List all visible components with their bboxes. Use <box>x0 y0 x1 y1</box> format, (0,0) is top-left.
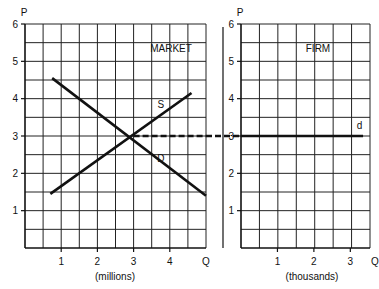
curve-label-d: d <box>357 120 363 131</box>
y-tick-label: 1 <box>228 205 234 216</box>
x-tick-label: 2 <box>95 256 101 267</box>
series-s <box>50 93 191 194</box>
x-unit-label: (millions) <box>95 271 135 282</box>
x-unit-label: (thousands) <box>286 271 339 282</box>
y-tick-label: 5 <box>12 56 18 67</box>
panel-firm: 123456123PQ(thousands)FIRMd <box>228 7 379 282</box>
y-tick-label: 4 <box>12 93 18 104</box>
panel-title: FIRM <box>306 43 330 54</box>
y-axis-label: P <box>21 7 28 18</box>
x-tick-label: 4 <box>167 256 173 267</box>
y-axis-label: P <box>237 7 244 18</box>
y-tick-label: 1 <box>12 205 18 216</box>
y-tick-label: 2 <box>228 168 234 179</box>
curve-label-s: S <box>157 99 164 110</box>
y-tick-label: 3 <box>12 131 18 142</box>
x-axis-label: Q <box>371 256 379 267</box>
y-tick-label: 6 <box>12 19 18 30</box>
y-tick-label: 4 <box>228 93 234 104</box>
x-tick-label: 3 <box>131 256 137 267</box>
x-tick-label: 2 <box>311 256 317 267</box>
market-firm-chart: 1234561234PQ(millions)MARKETSD123456123P… <box>0 0 379 289</box>
y-tick-label: 2 <box>12 168 18 179</box>
panel-market: 1234561234PQ(millions)MARKETSD <box>12 7 210 282</box>
panel-title: MARKET <box>150 43 192 54</box>
y-tick-label: 5 <box>228 56 234 67</box>
x-tick-label: 1 <box>58 256 64 267</box>
x-tick-label: 3 <box>348 256 354 267</box>
x-axis-label: Q <box>202 256 210 267</box>
y-tick-label: 6 <box>228 19 234 30</box>
curve-label-d: D <box>157 153 164 164</box>
x-tick-label: 1 <box>275 256 281 267</box>
